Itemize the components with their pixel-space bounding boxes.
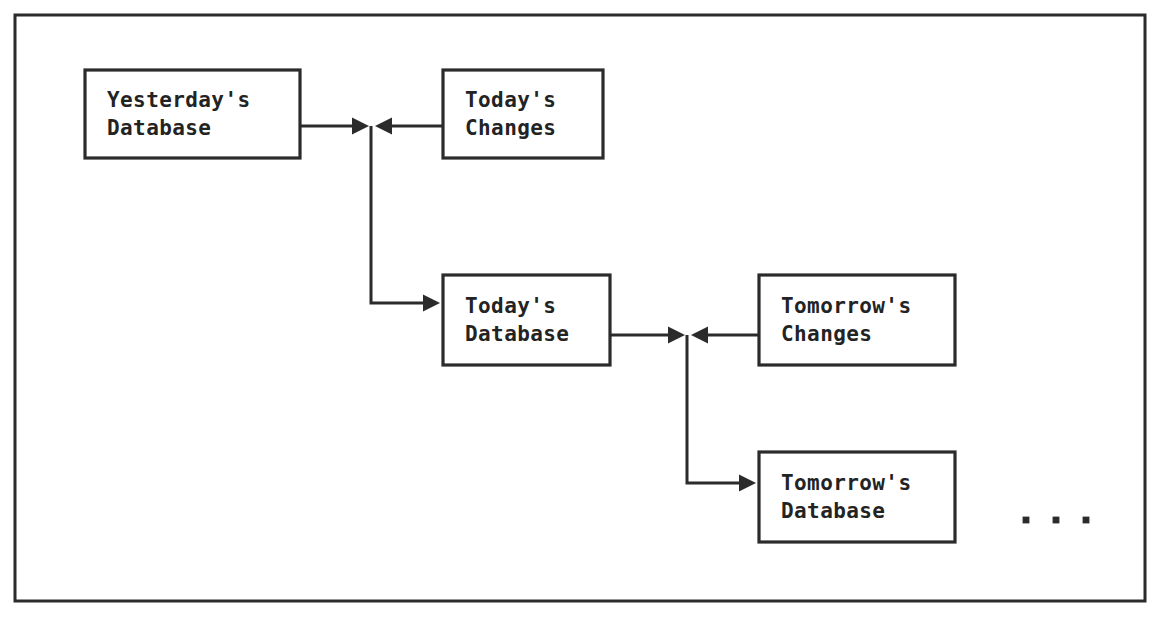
arrowhead-tomorrows-changes-to-junction-2: [691, 327, 708, 344]
ellipsis-dot-3: [1083, 517, 1090, 524]
node-box-yesterdays-database[interactable]: [85, 70, 300, 158]
diagram-canvas: Yesterday'sDatabaseToday'sChangesToday's…: [0, 0, 1156, 617]
arrowhead-junction-2-to-tomorrows-database: [739, 475, 756, 492]
arrowhead-todays-database-to-junction-2: [668, 327, 685, 344]
ellipsis-layer: [1023, 517, 1090, 524]
connector-junction-1-to-todays-database: [371, 126, 423, 303]
ellipsis-dot-2: [1053, 517, 1060, 524]
connector-junction-2-to-tomorrows-database: [687, 335, 739, 483]
diagram-graphics: [0, 0, 1156, 617]
arrowhead-junction-1-to-todays-database: [423, 295, 440, 312]
node-box-todays-changes[interactable]: [443, 70, 603, 158]
ellipsis-dot-1: [1023, 517, 1030, 524]
node-box-tomorrows-database[interactable]: [759, 452, 955, 542]
node-box-todays-database[interactable]: [443, 275, 610, 365]
node-rect-layer: [85, 70, 955, 542]
arrowhead-todays-changes-to-junction-1: [375, 118, 392, 135]
node-box-tomorrows-changes[interactable]: [759, 275, 955, 365]
arrowhead-yesterday-to-junction-1: [352, 118, 369, 135]
